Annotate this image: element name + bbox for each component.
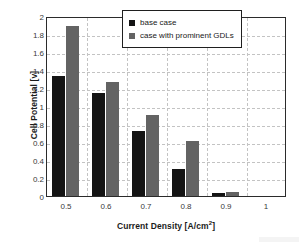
y-tick-label: 1.2 — [20, 85, 44, 94]
x-tick-label: 0.9 — [206, 201, 246, 212]
bar — [52, 76, 65, 196]
x-axis-title-tail: ] — [212, 221, 215, 231]
y-tick-label: 1.6 — [20, 49, 44, 58]
horizontal-gridline — [47, 162, 285, 163]
legend-item-prominent-gdls: case with prominent GDLs — [129, 29, 234, 42]
legend-swatch-icon-prominent-gdls — [129, 33, 135, 39]
x-axis-tick-labels: 0.50.60.70.80.91 — [46, 201, 286, 213]
horizontal-gridline — [47, 126, 285, 127]
x-axis-title: Current Density [A/cm2] — [46, 220, 286, 231]
x-tick-label: 0.7 — [126, 201, 166, 212]
bar — [66, 26, 79, 196]
x-tick-label: 0.5 — [46, 201, 86, 212]
bar — [226, 192, 239, 197]
x-tick-label: 0.6 — [86, 201, 126, 212]
y-tick-label: 0.2 — [20, 175, 44, 184]
horizontal-gridline — [47, 180, 285, 181]
horizontal-gridline — [47, 108, 285, 109]
scan-artifact — [259, 237, 299, 242]
legend-item-base-case: base case — [129, 16, 234, 29]
y-tick-label: 1.8 — [20, 31, 44, 40]
horizontal-gridline — [47, 90, 285, 91]
legend-label-base-case: base case — [140, 16, 176, 29]
bar — [212, 193, 225, 196]
chart-legend: base case case with prominent GDLs — [122, 10, 242, 48]
legend-label-prominent-gdls: case with prominent GDLs — [140, 29, 234, 42]
y-tick-label: 0.8 — [20, 121, 44, 130]
y-tick-label: 1.4 — [20, 67, 44, 76]
x-axis-title-base: Current Density [A/cm — [117, 221, 209, 231]
bar — [92, 93, 105, 197]
legend-swatch-icon-base-case — [129, 20, 135, 26]
horizontal-gridline — [47, 54, 285, 55]
y-tick-label: 2 — [20, 13, 44, 22]
bar — [132, 131, 145, 196]
vertical-gridline — [247, 18, 248, 196]
bar — [146, 115, 159, 196]
bar — [172, 169, 185, 196]
bar — [106, 82, 119, 196]
horizontal-gridline — [47, 72, 285, 73]
y-axis-tick-labels: 21.81.61.41.210.80.60.40.20 — [20, 17, 44, 197]
horizontal-gridline — [47, 144, 285, 145]
y-tick-label: 0.4 — [20, 157, 44, 166]
x-tick-label: 1 — [246, 201, 286, 212]
chart-figure: Cell Potential [v] 21.81.61.41.210.80.60… — [0, 0, 303, 245]
y-tick-label: 0 — [20, 193, 44, 202]
vertical-gridline — [87, 18, 88, 196]
y-tick-label: 0.6 — [20, 139, 44, 148]
y-tick-label: 1 — [20, 103, 44, 112]
x-tick-label: 0.8 — [166, 201, 206, 212]
bar — [186, 141, 199, 196]
